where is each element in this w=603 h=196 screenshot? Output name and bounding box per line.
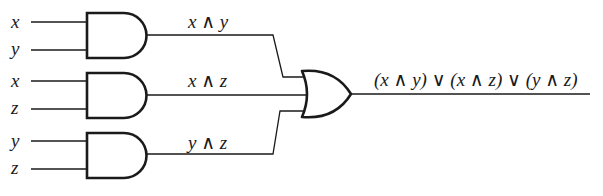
and-gate-1: [87, 13, 147, 58]
logic-circuit-diagram: x y x z y z x ∧ y x ∧ z y ∧ z (x ∧ y) ∨ …: [0, 0, 603, 196]
input-label: x: [10, 70, 20, 91]
and-gate-3: [87, 133, 147, 178]
input-label: y: [9, 130, 20, 151]
and-gate-1-output-label: x ∧ y: [187, 11, 229, 32]
or-gate-output-label: (x ∧ y) ∨ (x ∧ z) ∨ (y ∧ z): [374, 69, 578, 91]
input-label: z: [10, 157, 19, 178]
or-gate: [302, 71, 351, 118]
input-label: x: [10, 11, 20, 32]
and-gate-2: [87, 73, 146, 118]
input-label: y: [9, 38, 20, 59]
and-gate-2-output-label: x ∧ z: [187, 70, 228, 91]
and-gate-3-output-label: y ∧ z: [186, 132, 228, 153]
input-label: z: [10, 97, 19, 118]
